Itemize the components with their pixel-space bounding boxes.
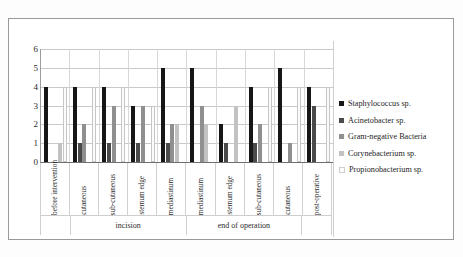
bar[interactable]: [307, 87, 311, 162]
bar-group: [187, 49, 216, 162]
y-tick-label: 4: [34, 82, 39, 91]
x-axis-category-text: cutaneous: [80, 185, 88, 215]
x-axis-category-text: mediastinum: [167, 177, 175, 215]
bar[interactable]: [312, 106, 316, 163]
bar[interactable]: [112, 106, 116, 163]
bar[interactable]: [268, 87, 272, 162]
bar-group: [70, 49, 99, 162]
bar-group: [246, 49, 275, 162]
legend-label: Corynebacterium sp.: [348, 149, 416, 158]
x-axis-category-label: cutaneous: [70, 163, 99, 215]
legend-label: Acinetobacter sp.: [348, 116, 405, 125]
legend-swatch-icon: [339, 151, 344, 156]
bar-group: [217, 49, 246, 162]
legend-label: Staphylococcus sp.: [348, 99, 411, 108]
x-axis-category-text: sternum edge: [138, 175, 146, 215]
bar[interactable]: [258, 124, 262, 162]
plot-area: [40, 49, 333, 163]
bar[interactable]: [161, 68, 165, 162]
legend-item[interactable]: Acinetobacter sp.: [339, 116, 463, 125]
x-axis-category-label: mediastinum: [186, 163, 215, 215]
legend-item[interactable]: Staphylococcus sp.: [339, 99, 463, 108]
bar[interactable]: [121, 87, 125, 162]
x-axis-category-label: mediastinum: [157, 163, 186, 215]
bar-group: [129, 49, 158, 162]
bars-layer: [41, 49, 333, 162]
x-axis-group-spacer: [302, 216, 332, 235]
bar[interactable]: [78, 143, 82, 162]
legend-swatch-icon: [339, 167, 345, 173]
bar[interactable]: [224, 143, 228, 162]
bar[interactable]: [297, 87, 301, 162]
x-axis-category-text: sub-cutaneous: [255, 173, 263, 215]
chart-legend: Staphylococcus sp.Acinetobacter sp.Gram-…: [339, 99, 463, 182]
x-axis-category-text: sub-cutaneous: [109, 173, 117, 215]
bar[interactable]: [131, 106, 135, 163]
x-axis-category-text: before intervention: [51, 159, 59, 215]
legend-label: Gram-negative Bacteria: [348, 132, 426, 141]
bar[interactable]: [326, 87, 330, 162]
bar[interactable]: [136, 143, 140, 162]
bar[interactable]: [151, 106, 155, 163]
x-axis-category-labels: before interventioncutaneoussub-cutaneou…: [40, 163, 332, 215]
legend-item[interactable]: Propionobacterium sp.: [339, 165, 463, 174]
x-axis-category-text: sternum edge: [226, 175, 234, 215]
x-axis-category-label: cutaneous: [274, 163, 303, 215]
x-axis-category-label: sternum edge: [128, 163, 157, 215]
figure-frame: 0123456 before interventioncutaneoussub-…: [8, 18, 454, 240]
bar[interactable]: [175, 124, 179, 162]
legend-item[interactable]: Gram-negative Bacteria: [339, 132, 463, 141]
y-tick-label: 2: [34, 120, 39, 129]
bar[interactable]: [219, 124, 223, 162]
x-axis-category-text: cutaneous: [284, 185, 292, 215]
bar[interactable]: [249, 87, 253, 162]
x-axis-group-spacer: [40, 216, 71, 235]
x-axis-category-label: sub-cutaneous: [245, 163, 274, 215]
legend-swatch-icon: [339, 134, 344, 139]
bar-group: [41, 49, 70, 162]
bar-group: [275, 49, 304, 162]
bar[interactable]: [166, 143, 170, 162]
x-axis-category-text: mediastinum: [197, 177, 205, 215]
bar[interactable]: [141, 106, 145, 163]
x-axis-category-label: sub-cutaneous: [99, 163, 128, 215]
legend-item[interactable]: Corynebacterium sp.: [339, 149, 463, 158]
x-axis-group-labels: incisionend of operation: [40, 215, 332, 235]
legend-swatch-icon: [339, 118, 344, 123]
bar[interactable]: [107, 143, 111, 162]
bar[interactable]: [278, 68, 282, 162]
bar[interactable]: [200, 106, 204, 163]
chart-page: 0123456 before interventioncutaneoussub-…: [0, 0, 463, 257]
bar[interactable]: [170, 124, 174, 162]
bar[interactable]: [102, 87, 106, 162]
bar[interactable]: [44, 87, 48, 162]
bar-group: [158, 49, 187, 162]
y-axis: 0123456: [22, 49, 38, 162]
bar[interactable]: [234, 106, 238, 163]
bar[interactable]: [253, 143, 257, 162]
x-axis-group-label: incision: [71, 216, 187, 235]
y-tick-label: 3: [34, 101, 39, 110]
bar[interactable]: [190, 68, 194, 162]
bar[interactable]: [73, 87, 77, 162]
y-tick-label: 6: [34, 45, 39, 54]
bar[interactable]: [82, 124, 86, 162]
legend-divider: [333, 41, 334, 237]
x-axis-category-label: sternum edge: [216, 163, 245, 215]
y-tick-label: 1: [34, 139, 39, 148]
y-tick-label: 5: [34, 63, 39, 72]
x-axis-category-text: post-operative: [313, 173, 321, 215]
x-axis-group-label: end of operation: [187, 216, 303, 235]
legend-label: Propionobacterium sp.: [349, 165, 423, 174]
plot-wrapper: 0123456 before interventioncutaneoussub-…: [22, 41, 332, 237]
bar-group: [305, 49, 333, 162]
y-tick-label: 0: [34, 158, 39, 167]
x-axis-category-label: post-operative: [303, 163, 332, 215]
bar[interactable]: [92, 87, 96, 162]
x-axis-category-label: before intervention: [40, 163, 70, 215]
bar[interactable]: [204, 124, 208, 162]
bar[interactable]: [288, 143, 292, 162]
bar-group: [100, 49, 129, 162]
legend-swatch-icon: [339, 101, 344, 106]
bar[interactable]: [63, 87, 67, 162]
